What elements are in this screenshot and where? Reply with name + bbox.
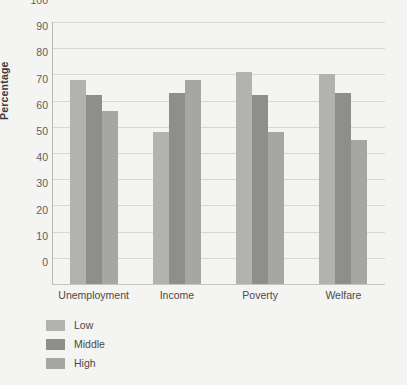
x-tick-label: Income [160, 289, 194, 301]
x-tick-label: Welfare [325, 289, 361, 301]
legend-item[interactable]: High [46, 354, 105, 373]
y-tick-label: 60 [4, 100, 48, 110]
y-tick-label: 100 [4, 0, 48, 5]
chart-canvas: Percentage 0102030405060708090100 Unempl… [0, 0, 407, 385]
bar [335, 93, 351, 284]
x-tick-label: Poverty [242, 289, 278, 301]
legend: LowMiddleHigh [46, 316, 105, 373]
y-tick-label: 70 [4, 74, 48, 84]
y-tick-label: 90 [4, 21, 48, 31]
y-tick-label: 10 [4, 231, 48, 241]
bar-group [219, 22, 302, 284]
legend-item[interactable]: Middle [46, 335, 105, 354]
legend-swatch [46, 320, 65, 331]
x-tick-label: Unemployment [58, 289, 129, 301]
y-axis-ticks: 0102030405060708090100 [0, 0, 48, 262]
x-axis-labels: UnemploymentIncomePovertyWelfare [52, 289, 385, 305]
bar [169, 93, 185, 284]
bar [268, 132, 284, 284]
y-tick-label: 30 [4, 178, 48, 188]
y-tick-label: 80 [4, 47, 48, 57]
bar-group [52, 22, 135, 284]
y-tick-label: 50 [4, 126, 48, 136]
bar-groups [52, 22, 385, 284]
legend-swatch [46, 339, 65, 350]
bar-group [302, 22, 385, 284]
bar-group [135, 22, 218, 284]
legend-label: Middle [74, 339, 105, 350]
bar [252, 95, 268, 284]
y-tick-label: 40 [4, 152, 48, 162]
legend-item[interactable]: Low [46, 316, 105, 335]
x-axis-line [52, 284, 385, 285]
bar [185, 80, 201, 284]
y-tick-label: 20 [4, 205, 48, 215]
legend-label: High [74, 358, 96, 369]
bar [86, 95, 102, 284]
bar [319, 74, 335, 284]
bar [153, 132, 169, 284]
legend-swatch [46, 358, 65, 369]
y-tick-label: 0 [4, 257, 48, 267]
bar [236, 72, 252, 284]
legend-label: Low [74, 320, 93, 331]
bar [102, 111, 118, 284]
bar [70, 80, 86, 284]
bar [351, 140, 367, 284]
